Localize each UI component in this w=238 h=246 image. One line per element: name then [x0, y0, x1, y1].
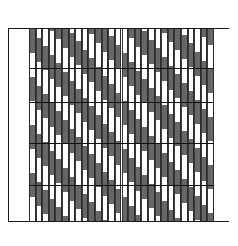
column-separator	[75, 29, 76, 221]
bottom-band	[8, 221, 229, 238]
column-separator	[181, 29, 182, 221]
segment-light	[29, 149, 36, 173]
column-separator	[42, 29, 43, 221]
column-separator	[135, 29, 136, 221]
column-separator	[174, 29, 175, 221]
segment-light	[29, 197, 36, 221]
column-separator	[88, 29, 89, 221]
gridline-0	[29, 68, 214, 69]
column-separator	[122, 29, 123, 221]
column-separator	[49, 29, 50, 221]
column-separator	[168, 29, 169, 221]
column-separator	[108, 29, 109, 221]
gridline-2	[29, 143, 214, 144]
column-separator	[62, 29, 63, 221]
column-separator	[155, 29, 156, 221]
segment-light	[29, 101, 36, 125]
column-separator	[188, 29, 189, 221]
gridline-1	[29, 102, 214, 103]
column-separator	[161, 29, 162, 221]
column-separator	[36, 29, 37, 221]
column-separator	[201, 29, 202, 221]
left-gutter	[9, 29, 29, 221]
column-separator	[55, 29, 56, 221]
column-separator	[148, 29, 149, 221]
column-separator	[82, 29, 83, 221]
pattern-plot-area	[29, 29, 214, 221]
column-separator	[207, 29, 208, 221]
pattern-column	[29, 29, 36, 221]
column-separator	[141, 29, 142, 221]
figure-canvas	[0, 0, 238, 246]
segment-light	[29, 53, 36, 77]
segment-dark	[29, 125, 36, 149]
column-separator	[102, 29, 103, 221]
column-separator	[115, 29, 116, 221]
column-separator	[128, 29, 129, 221]
segment-dark	[29, 77, 36, 101]
column-separator	[194, 29, 195, 221]
top-band	[8, 8, 229, 29]
column-separator	[95, 29, 96, 221]
segment-dark	[29, 29, 36, 53]
gridline-3	[29, 185, 214, 186]
right-gutter	[214, 29, 229, 221]
column-separator	[69, 29, 70, 221]
